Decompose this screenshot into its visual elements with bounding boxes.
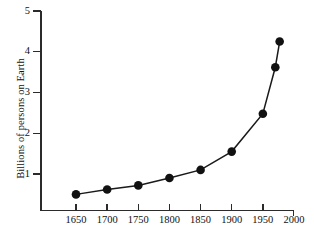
data-point	[134, 181, 143, 190]
series-line	[76, 42, 280, 195]
data-point	[165, 174, 174, 183]
data-point	[103, 185, 112, 194]
data-point	[196, 166, 205, 175]
plot-area	[0, 0, 314, 240]
data-point	[72, 190, 81, 199]
data-point	[227, 147, 236, 156]
data-point	[259, 109, 268, 118]
data-point	[271, 63, 280, 72]
series-markers	[72, 37, 284, 198]
population-chart: Billions of persons on Earth 12345 16501…	[0, 0, 314, 240]
data-point	[275, 37, 284, 46]
